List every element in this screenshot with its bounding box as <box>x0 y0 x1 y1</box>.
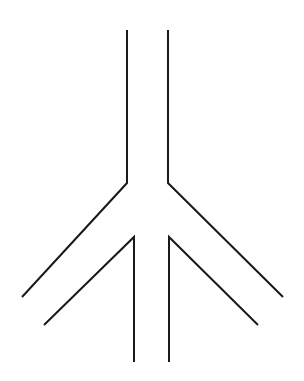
line-drawing <box>0 0 304 381</box>
figure-canvas <box>0 0 304 381</box>
